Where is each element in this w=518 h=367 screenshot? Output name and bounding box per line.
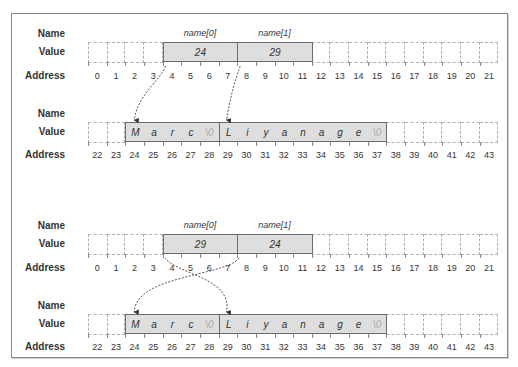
arrow-name1-to-29 xyxy=(227,66,241,120)
arrow-name0-to-29 xyxy=(165,258,227,312)
pointer-arrows xyxy=(0,0,518,367)
arrow-name1-to-24 xyxy=(134,258,239,312)
arrow-name0-to-24 xyxy=(134,66,165,120)
